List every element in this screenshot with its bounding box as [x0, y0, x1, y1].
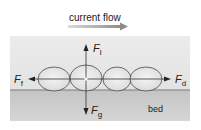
- current-flow-label: current flow: [69, 12, 121, 23]
- current-flow-arrow: [68, 23, 128, 31]
- sediment-force-diagram: current flow Fl Ff Fd Fg bed: [0, 0, 201, 130]
- bed-label: bed: [148, 104, 163, 114]
